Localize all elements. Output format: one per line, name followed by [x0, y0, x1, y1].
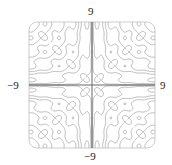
- y-min-tick-label: −9: [84, 151, 96, 162]
- x-min-tick-label: −9: [7, 80, 19, 91]
- x-max-tick-label: 9: [160, 80, 166, 91]
- contour-plot: [0, 0, 172, 165]
- y-max-tick-label: 9: [88, 6, 94, 17]
